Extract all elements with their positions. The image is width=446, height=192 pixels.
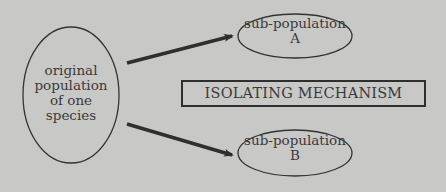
arrow-to-sub-a xyxy=(127,36,232,63)
original-line-3: of one xyxy=(23,93,119,108)
original-population-label: original population of one species xyxy=(23,63,119,123)
sub-a-line-1: sub-population xyxy=(238,16,352,31)
sub-population-b-label: sub-population B xyxy=(238,133,352,163)
arrow-to-sub-b xyxy=(127,124,232,155)
isolating-mechanism-box: ISOLATING MECHANISM xyxy=(181,80,426,107)
sub-a-line-2: A xyxy=(238,31,352,46)
original-line-1: original xyxy=(23,63,119,78)
sub-b-line-2: B xyxy=(238,148,352,163)
sub-b-line-1: sub-population xyxy=(238,133,352,148)
original-line-4: species xyxy=(23,108,119,123)
sub-population-a-label: sub-population A xyxy=(238,16,352,46)
original-line-2: population xyxy=(23,78,119,93)
speciation-diagram: original population of one species sub-p… xyxy=(0,0,446,192)
